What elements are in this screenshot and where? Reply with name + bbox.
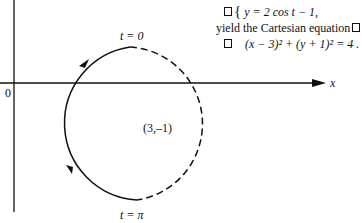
x-axis-arrow-icon — [312, 79, 326, 87]
solid-arc — [65, 47, 137, 200]
equation-line-3: (x − 3)² + (y + 1)² = 4 . — [222, 37, 359, 51]
x-axis-label: x — [330, 76, 335, 90]
box-glyph-icon — [224, 7, 232, 16]
box-glyph-icon — [224, 39, 232, 48]
t0-label: t = 0 — [120, 29, 143, 43]
box-glyph-icon — [352, 23, 360, 32]
equation-caption: yield the Cartesian equation — [216, 21, 350, 35]
direction-arrow-icon — [79, 59, 89, 68]
tpi-label: t = π — [120, 208, 143, 222]
direction-arrow-icon — [66, 165, 73, 174]
origin-label: 0 — [5, 86, 11, 100]
center-label: (3,–1) — [143, 121, 172, 135]
equation-line-1: { y = 2 cos t − 1, — [222, 4, 318, 19]
equation-line-2: yield the Cartesian equation — [216, 21, 362, 35]
equation-y: y = 2 cos t − 1, — [244, 5, 318, 19]
cartesian-equation: (x − 3)² + (y + 1)² = 4 . — [245, 37, 359, 51]
